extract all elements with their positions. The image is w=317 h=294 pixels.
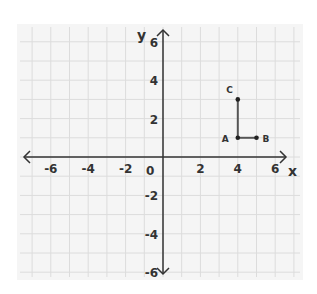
- origin-label: 0: [146, 164, 154, 178]
- x-tick-label: -2: [119, 162, 132, 176]
- x-tick-label: -6: [44, 162, 57, 176]
- point-label-C: C: [226, 85, 233, 95]
- y-tick-label: 6: [150, 36, 158, 50]
- x-axis-label: x: [288, 163, 297, 179]
- y-tick-label: -4: [145, 228, 158, 242]
- x-tick-label: 6: [271, 162, 279, 176]
- y-tick-label: 4: [150, 74, 158, 88]
- y-axis-label: y: [137, 27, 146, 43]
- y-tick-label: -6: [145, 266, 158, 280]
- x-tick-label: 4: [234, 162, 242, 176]
- point-B: [254, 136, 259, 141]
- coordinate-plane: -6-4-2246-6-4-2246 ABC x y 0: [0, 0, 317, 294]
- y-tick-label: -2: [145, 189, 158, 203]
- x-tick-label: -4: [82, 162, 95, 176]
- point-C: [236, 97, 241, 102]
- point-label-A: A: [222, 134, 229, 144]
- x-tick-label: 2: [196, 162, 204, 176]
- point-A: [236, 136, 241, 141]
- graph-paper-panel: [17, 24, 303, 280]
- point-label-B: B: [263, 134, 270, 144]
- y-tick-label: 2: [150, 113, 158, 127]
